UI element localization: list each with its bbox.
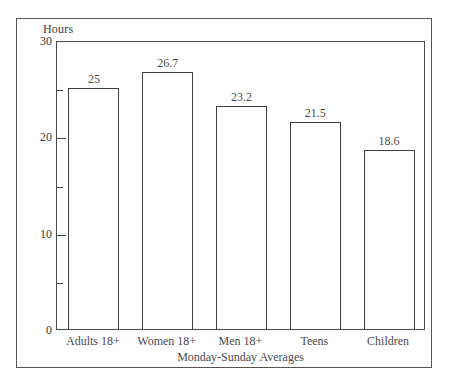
x-axis-title: Monday-Sunday Averages bbox=[56, 350, 425, 365]
y-tick-minor bbox=[57, 283, 63, 284]
y-tick-label-30: 30 bbox=[40, 34, 52, 49]
y-tick-minor bbox=[57, 187, 63, 188]
bar-men-18: 23.2 bbox=[216, 106, 267, 329]
bar-women-18: 26.7 bbox=[142, 72, 193, 329]
category-label-children: Children bbox=[367, 334, 409, 349]
category-label-teens: Teens bbox=[300, 334, 328, 349]
bar-adults-18: 25 bbox=[68, 88, 119, 329]
bar-value-label: 26.7 bbox=[157, 56, 178, 71]
plot-area: 2526.723.221.518.6 bbox=[56, 41, 425, 330]
y-tick-label-0: 0 bbox=[46, 323, 52, 338]
y-tick-major bbox=[57, 235, 66, 236]
category-label-women-18: Women 18+ bbox=[137, 334, 196, 349]
category-label-adults-18: Adults 18+ bbox=[66, 334, 120, 349]
bar-value-label: 18.6 bbox=[379, 134, 400, 149]
category-label-men-18: Men 18+ bbox=[219, 334, 263, 349]
bar-value-label: 25 bbox=[88, 72, 100, 87]
y-tick-minor bbox=[57, 90, 63, 91]
y-axis-tick-labels: 0102030 bbox=[20, 41, 52, 330]
bar-teens: 21.5 bbox=[290, 122, 341, 329]
y-tick-major bbox=[57, 138, 66, 139]
bar-chart: Hours 0102030 2526.723.221.518.6 Monday-… bbox=[0, 0, 449, 390]
y-tick-label-10: 10 bbox=[40, 226, 52, 241]
bar-children: 18.6 bbox=[364, 150, 415, 329]
bar-value-label: 23.2 bbox=[231, 90, 252, 105]
bar-value-label: 21.5 bbox=[305, 106, 326, 121]
y-tick-label-20: 20 bbox=[40, 130, 52, 145]
